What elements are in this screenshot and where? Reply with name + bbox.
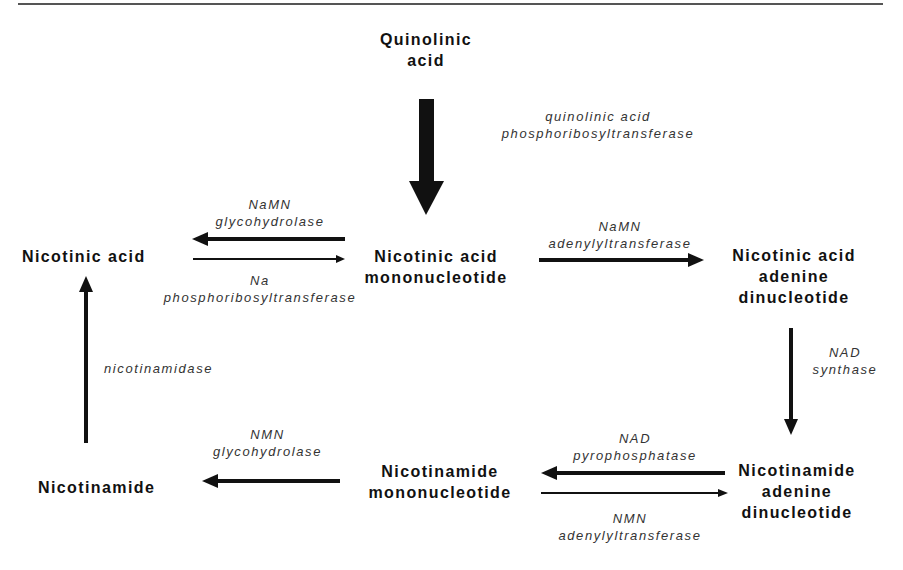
node-nicotinic-acid-adenine-dinucleotide: Nicotinic acid adenine dinucleotide (714, 245, 874, 308)
node-nicotinamide-mononucleotide: Nicotinamide mononucleotide (350, 461, 530, 503)
enzyme-line: adenylyltransferase (520, 235, 720, 252)
enzyme-nad-synthase: NAD synthase (800, 344, 890, 378)
enzyme-nad-pyrophosphatase: NAD pyrophosphatase (545, 430, 725, 464)
node-line: Quinolinic (371, 29, 481, 50)
arrow-nad-pyrophosphatase (541, 466, 725, 480)
arrow-qaprt (409, 99, 444, 215)
node-line: acid (371, 50, 481, 71)
arrow-namn-glycohydrolase (192, 232, 345, 246)
enzyme-nmn-adenylyltransferase: NMN adenylyltransferase (530, 510, 730, 544)
enzyme-line: NMN (530, 510, 730, 527)
node-line: Nicotinamide (38, 477, 188, 498)
node-line: adenine (714, 266, 874, 287)
arrow-nmn-adenylyltransferase (541, 489, 728, 497)
enzyme-namn-glycohydrolase: NaMN glycohydrolase (195, 196, 345, 230)
enzyme-line: NAD (800, 344, 890, 361)
node-line: Nicotinic acid (22, 246, 182, 267)
arrow-na-prt (193, 255, 345, 263)
enzyme-line: quinolinic acid (478, 108, 718, 125)
node-nicotinamide: Nicotinamide (38, 477, 188, 498)
node-line: Nicotinic acid (346, 246, 526, 267)
node-line: mononucleotide (350, 482, 530, 503)
node-line: dinucleotide (722, 502, 872, 523)
enzyme-line: synthase (800, 361, 890, 378)
arrow-nmn-glycohydrolase (202, 474, 340, 488)
node-line: Nicotinic acid (714, 245, 874, 266)
node-line: dinucleotide (714, 287, 874, 308)
enzyme-line: Na (130, 272, 390, 289)
node-line: adenine (722, 481, 872, 502)
arrow-nad-synthase (784, 328, 798, 435)
node-nicotinic-acid: Nicotinic acid (22, 246, 182, 267)
node-line: Nicotinamide (350, 461, 530, 482)
arrow-namn-adenylyltransferase (539, 253, 704, 267)
enzyme-line: NaMN (195, 196, 345, 213)
enzyme-line: glycohydrolase (195, 213, 345, 230)
enzyme-line: glycohydrolase (190, 443, 345, 460)
enzyme-line: adenylyltransferase (530, 527, 730, 544)
enzyme-line: nicotinamidase (104, 360, 254, 377)
enzyme-namn-adenylyltransferase: NaMN adenylyltransferase (520, 218, 720, 252)
node-quinolinic-acid: Quinolinic acid (371, 29, 481, 71)
enzyme-line: pyrophosphatase (545, 447, 725, 464)
enzyme-nicotinamidase: nicotinamidase (104, 360, 254, 377)
node-nicotinamide-adenine-dinucleotide: Nicotinamide adenine dinucleotide (722, 460, 872, 523)
enzyme-nmn-glycohydrolase: NMN glycohydrolase (190, 426, 345, 460)
enzyme-line: NAD (545, 430, 725, 447)
node-line: Nicotinamide (722, 460, 872, 481)
enzyme-line: NMN (190, 426, 345, 443)
enzyme-line: phosphoribosyltransferase (130, 289, 390, 306)
enzyme-line: phosphoribosyltransferase (478, 125, 718, 142)
enzyme-na-prt: Na phosphoribosyltransferase (130, 272, 390, 306)
enzyme-line: NaMN (520, 218, 720, 235)
enzyme-qaprt: quinolinic acid phosphoribosyltransferas… (478, 108, 718, 142)
arrow-nicotinamidase (79, 276, 93, 443)
